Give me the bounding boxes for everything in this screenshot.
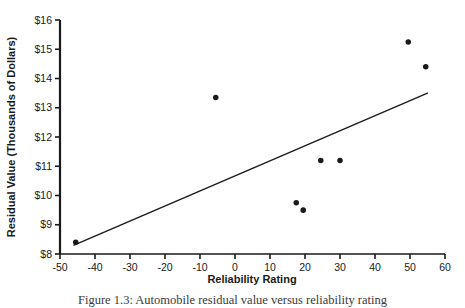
- data-point: [405, 39, 411, 45]
- x-tick-label: -20: [157, 261, 172, 273]
- y-tick-label: $16: [34, 14, 52, 26]
- figure-container: $8$9$10$11$12$13$14$15$16 -50-40-30-20-1…: [0, 0, 465, 308]
- data-point: [293, 200, 299, 206]
- x-tick-label: 20: [299, 261, 311, 273]
- y-tick-label: $8: [40, 248, 52, 260]
- x-tick-label: 60: [439, 261, 451, 273]
- y-tick-label: $12: [34, 131, 52, 143]
- x-tick-label: 40: [369, 261, 381, 273]
- y-tick-label: $13: [34, 101, 52, 113]
- data-point: [423, 64, 429, 70]
- x-tick-label: -30: [122, 261, 137, 273]
- x-tick-label: 10: [264, 261, 276, 273]
- x-tick-label: -40: [87, 261, 102, 273]
- data-point: [300, 207, 306, 213]
- y-axis-title: Residual Value (Thousands of Dollars): [5, 36, 17, 237]
- y-tick-label: $9: [40, 218, 52, 230]
- data-point: [73, 240, 79, 246]
- x-axis-title: Reliability Rating: [207, 273, 296, 285]
- x-tick-label: -50: [52, 261, 67, 273]
- x-tick-label: 0: [232, 261, 238, 273]
- y-tick-label: $15: [34, 43, 52, 55]
- y-tick-label: $11: [35, 160, 52, 172]
- data-point: [337, 158, 343, 164]
- y-tick-label: $14: [34, 72, 52, 84]
- y-tick-label: $10: [34, 189, 52, 201]
- data-point: [213, 95, 219, 101]
- x-tick-label: 50: [404, 261, 416, 273]
- figure-caption: Figure 1.3: Automobile residual value ve…: [0, 292, 465, 308]
- x-tick-label: -10: [192, 261, 207, 273]
- data-point: [318, 158, 324, 164]
- scatter-plot: $8$9$10$11$12$13$14$15$16 -50-40-30-20-1…: [0, 0, 465, 308]
- x-tick-label: 30: [334, 261, 346, 273]
